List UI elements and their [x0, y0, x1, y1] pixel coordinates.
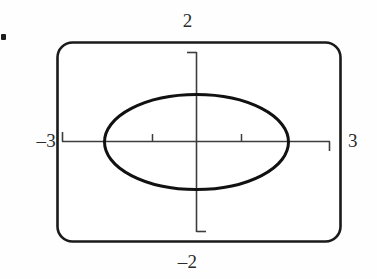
- y-axis-min-label: –2: [0, 252, 376, 271]
- x-axis-min-label: –3: [22, 131, 56, 150]
- scan-speck-artifact: [1, 34, 6, 40]
- x-axis-max-label: 3: [348, 131, 374, 150]
- y-axis-max-label: 2: [0, 11, 376, 30]
- calculator-figure: 2 –2 –3 3: [0, 0, 377, 279]
- figure-canvas: [0, 0, 377, 279]
